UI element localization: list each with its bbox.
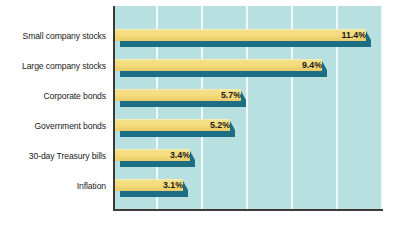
bar-shadow [120, 100, 246, 107]
bar-shadow [120, 130, 235, 137]
bar-shadow [120, 160, 195, 167]
category-label-large-company-stocks: Large company stocks [0, 61, 106, 71]
bar-shadow [120, 70, 327, 77]
bar-value-label: 3.1% [115, 179, 188, 191]
plot-area: 11.4% 9.4% 5.7% 5.2% 3.4% [113, 6, 383, 211]
bar-value-label: 5.2% [115, 119, 235, 131]
category-axis: Small company stocks Large company stock… [0, 0, 110, 231]
category-label-small-company-stocks: Small company stocks [0, 31, 106, 41]
category-label-corporate-bonds: Corporate bonds [0, 91, 106, 101]
bar-chart-figure: Small company stocks Large company stock… [0, 0, 400, 231]
bar-value-label: 3.4% [115, 149, 195, 161]
bar-shadow [120, 40, 371, 47]
category-label-inflation: Inflation [0, 181, 106, 191]
bar-value-label: 11.4% [115, 29, 371, 41]
category-label-government-bonds: Government bonds [0, 121, 106, 131]
gridline-12 [381, 6, 383, 209]
bar-value-label: 5.7% [115, 89, 246, 101]
category-label-treasury-bills: 30-day Treasury bills [0, 151, 106, 161]
bar-value-label: 9.4% [115, 59, 327, 71]
bar-shadow [120, 190, 188, 197]
